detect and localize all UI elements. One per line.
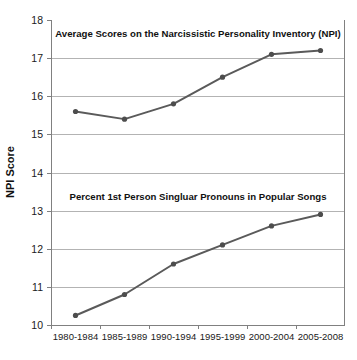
data-point-marker [269, 52, 274, 57]
y-tick-label: 13 [31, 205, 43, 217]
y-tick-label: 16 [31, 90, 43, 102]
y-tick-label: 18 [31, 14, 43, 26]
y-tick-label: 15 [31, 128, 43, 140]
x-tick-label: 1990-1994 [151, 331, 196, 342]
y-tick-label: 14 [31, 167, 43, 179]
y-tick-labels: 101112131415161718 [31, 14, 43, 331]
y-tick-label: 10 [31, 319, 43, 331]
x-tick-label: 1980-1984 [53, 331, 98, 342]
y-tick-label: 12 [31, 243, 43, 255]
x-tick-label: 2005-2008 [298, 331, 343, 342]
y-axis-title: NPI Score [4, 146, 16, 198]
data-point-marker [122, 292, 127, 297]
data-point-marker [171, 261, 176, 266]
chart-container: 101112131415161718 1980-19841985-1989199… [0, 0, 357, 360]
y-tick-label: 11 [32, 281, 43, 293]
plot-area [51, 20, 345, 325]
x-tick-label: 1985-1989 [102, 331, 147, 342]
data-point-marker [122, 117, 127, 122]
x-tick-label: 1995-1999 [200, 331, 245, 342]
x-tick-label: 2000-2004 [249, 331, 294, 342]
data-point-marker [73, 313, 78, 318]
data-point-marker [220, 75, 225, 80]
line-chart-svg: 101112131415161718 1980-19841985-1989199… [0, 0, 357, 360]
upper-series-title: Average Scores on the Narcissistic Perso… [55, 28, 340, 39]
data-point-marker [269, 223, 274, 228]
data-point-marker [171, 101, 176, 106]
data-point-marker [220, 242, 225, 247]
y-tick-label: 17 [31, 52, 43, 64]
data-point-marker [73, 109, 78, 114]
data-point-marker [318, 48, 323, 53]
data-point-marker [318, 212, 323, 217]
lower-series-title: Percent 1st Person Singluar Pronouns in … [70, 191, 327, 202]
